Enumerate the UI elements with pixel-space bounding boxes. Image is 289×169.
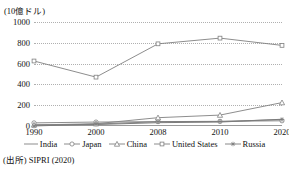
y-tick-label: 400 (0, 80, 30, 89)
y-tick-label: 800 (0, 38, 30, 47)
legend-swatch-triangle-icon (109, 139, 125, 149)
marker-asterisk (94, 122, 99, 127)
marker-square (160, 142, 164, 146)
clipped-title-remnant (6, 0, 246, 5)
legend-swatch-circle-icon (64, 139, 80, 149)
legend-label: India (40, 139, 57, 149)
source-note: (出所) SIPRI (2020) (3, 155, 74, 165)
x-tick-label: 2000 (76, 128, 116, 137)
x-tick-label: 2008 (138, 128, 178, 137)
marker-asterisk (280, 117, 285, 122)
marker-square (32, 59, 36, 63)
marker-square (218, 36, 222, 40)
legend-item-china[interactable]: China (109, 139, 147, 149)
marker-square (94, 75, 98, 79)
legend-label: United States (172, 139, 218, 149)
chart-figure: (10億ドル) 02004006008001000 19902000200820… (0, 0, 289, 169)
legend-label: Japan (82, 139, 101, 149)
x-tick-label: 2020 (262, 128, 289, 137)
legend-swatch-asterisk-icon (225, 139, 241, 149)
marker-asterisk (156, 119, 161, 124)
legend-label: China (127, 139, 147, 149)
y-axis-unit-label: (10億ドル) (4, 6, 45, 16)
legend-label: Russia (243, 139, 266, 149)
x-tick-label: 1990 (14, 128, 54, 137)
marker-circle (70, 142, 74, 146)
y-tick-label: 200 (0, 101, 30, 110)
legend-item-united-states[interactable]: United States (154, 139, 218, 149)
legend-item-russia[interactable]: Russia (225, 139, 266, 149)
marker-asterisk (218, 119, 223, 124)
chart-legend: IndiaJapanChinaUnited StatesRussia (0, 139, 289, 149)
marker-square (280, 44, 284, 48)
series-layer (34, 22, 282, 126)
marker-triangle (279, 100, 284, 105)
legend-swatch-none-icon (24, 139, 38, 149)
y-tick-label: 1000 (0, 18, 30, 27)
plot-area (34, 22, 282, 126)
y-tick-label: 600 (0, 59, 30, 68)
legend-item-india[interactable]: India (24, 139, 57, 149)
x-tick-label: 2010 (200, 128, 240, 137)
marker-asterisk (230, 142, 235, 147)
marker-square (156, 42, 160, 46)
legend-item-japan[interactable]: Japan (64, 139, 101, 149)
legend-swatch-square-icon (154, 139, 170, 149)
